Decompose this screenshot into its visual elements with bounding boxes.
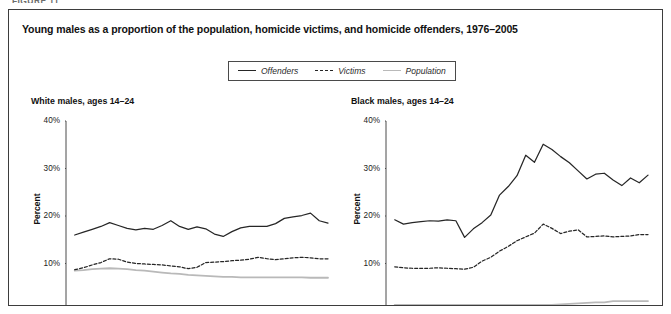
series-line-offenders <box>395 144 648 237</box>
legend-label-offenders: Offenders <box>261 66 298 76</box>
y-tick-label: 20% <box>364 211 380 220</box>
legend-label-population: Population <box>406 66 446 76</box>
y-axis-label-right: Percent <box>352 169 362 249</box>
plot-area-black-males: 0%10%20%30%40%19751980198519901995200020… <box>385 120 647 306</box>
series-line-population <box>75 268 328 278</box>
line-light-icon <box>383 70 401 71</box>
legend-label-victims: Victims <box>338 66 365 76</box>
figure-kicker: FIGURE 11 <box>12 0 59 3</box>
line-solid-icon <box>238 70 256 71</box>
y-tick-label: 10% <box>44 258 60 267</box>
y-tick-label: 0% <box>48 306 60 307</box>
line-dashed-icon <box>315 70 333 71</box>
y-tick-label: 40% <box>44 116 60 125</box>
y-axis-label-left: Percent <box>32 169 42 249</box>
plot-area-white-males: 0%10%20%30%40%19751980198519901995200020… <box>65 120 327 306</box>
y-tick-label: 30% <box>44 163 60 172</box>
chart-legend: Offenders Victims Population <box>228 61 456 81</box>
legend-item-victims: Victims <box>315 66 365 76</box>
chart-title-white-males: White males, ages 14–24 <box>31 96 134 106</box>
y-tick-label: 40% <box>364 116 380 125</box>
y-tick-label: 10% <box>364 258 380 267</box>
y-tick-label: 30% <box>364 163 380 172</box>
series-line-victims <box>395 224 648 269</box>
series-line-offenders <box>75 213 328 236</box>
series-line-population <box>395 301 648 305</box>
page-title: Young males as a proportion of the popul… <box>22 23 518 35</box>
y-tick-label: 20% <box>44 211 60 220</box>
figure-container: Young males as a proportion of the popul… <box>8 9 663 306</box>
y-tick-label: 0% <box>368 306 380 307</box>
legend-item-offenders: Offenders <box>238 66 298 76</box>
legend-item-population: Population <box>383 66 446 76</box>
chart-title-black-males: Black males, ages 14–24 <box>351 96 454 106</box>
